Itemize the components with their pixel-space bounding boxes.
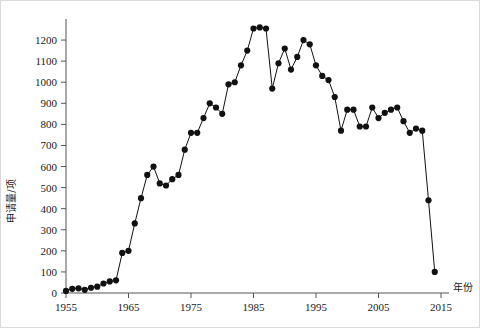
data-point [119, 250, 125, 256]
data-point [157, 180, 163, 186]
data-point [225, 81, 231, 87]
data-point [313, 62, 319, 68]
x-axis: 1955196519751985199520052015 [55, 293, 453, 313]
data-point [144, 172, 150, 178]
data-point [100, 280, 106, 286]
y-tick-label: 200 [41, 245, 58, 257]
data-point [338, 128, 344, 134]
data-point [207, 100, 213, 106]
data-point [257, 24, 263, 30]
data-point [319, 73, 325, 79]
y-tick-label: 1100 [35, 55, 57, 67]
y-tick-label: 600 [41, 161, 58, 173]
data-point [82, 287, 88, 293]
data-point [400, 118, 406, 124]
data-point [363, 123, 369, 129]
data-point [107, 278, 113, 284]
data-point [269, 85, 275, 91]
y-tick-label: 700 [41, 139, 58, 151]
data-point [375, 115, 381, 121]
data-point [388, 107, 394, 113]
x-tick-label: 1995 [305, 301, 328, 313]
x-tick-label: 1955 [55, 301, 78, 313]
data-point [294, 54, 300, 60]
data-point [419, 128, 425, 134]
data-point [288, 66, 294, 72]
data-point [344, 107, 350, 113]
data-point [232, 79, 238, 85]
data-point [94, 284, 100, 290]
y-tick-label: 900 [41, 97, 58, 109]
data-point [113, 277, 119, 283]
data-point [275, 60, 281, 66]
data-point [350, 107, 356, 113]
data-point [219, 111, 225, 117]
data-point [69, 286, 75, 292]
data-point [194, 130, 200, 136]
data-point [432, 269, 438, 275]
data-point [282, 45, 288, 51]
data-point [213, 104, 219, 110]
x-tick-label: 2015 [430, 301, 453, 313]
y-tick-label: 300 [41, 224, 58, 236]
data-point [175, 172, 181, 178]
y-tick-label: 0 [52, 287, 58, 299]
data-point [407, 130, 413, 136]
data-point [425, 197, 431, 203]
x-tick-label: 1985 [243, 301, 266, 313]
line-chart-canvas: 0100200300400500600700800900100011001200… [1, 1, 480, 328]
x-axis-title: 年份 [453, 281, 473, 293]
data-point [394, 104, 400, 110]
data-point [169, 176, 175, 182]
x-tick-label: 1965 [118, 301, 141, 313]
data-point [163, 182, 169, 188]
chart-figure: 0100200300400500600700800900100011001200… [0, 0, 480, 328]
data-point [75, 285, 81, 291]
data-point [413, 126, 419, 132]
data-point [300, 37, 306, 43]
y-axis: 0100200300400500600700800900100011001200 [35, 19, 66, 299]
data-point [325, 77, 331, 83]
data-point [188, 130, 194, 136]
data-point [382, 110, 388, 116]
y-tick-label: 400 [41, 203, 58, 215]
data-point [63, 288, 69, 294]
y-tick-label: 1000 [35, 76, 58, 88]
x-tick-label: 1975 [180, 301, 203, 313]
data-point [150, 163, 156, 169]
y-axis-title: 申请量/项 [5, 179, 17, 222]
data-point [125, 248, 131, 254]
y-tick-label: 1200 [35, 34, 58, 46]
data-point [369, 104, 375, 110]
data-point [332, 94, 338, 100]
data-point [182, 147, 188, 153]
data-point [244, 48, 250, 54]
data-point [200, 115, 206, 121]
y-tick-label: 100 [41, 266, 58, 278]
data-point [138, 195, 144, 201]
data-point [88, 285, 94, 291]
data-series-applications [63, 24, 438, 294]
y-tick-label: 800 [41, 118, 58, 130]
y-tick-label: 500 [41, 182, 58, 194]
data-point [250, 25, 256, 31]
data-point [357, 123, 363, 129]
data-point [132, 220, 138, 226]
data-point [238, 62, 244, 68]
data-point [263, 25, 269, 31]
data-point [307, 41, 313, 47]
x-tick-label: 2005 [368, 301, 391, 313]
